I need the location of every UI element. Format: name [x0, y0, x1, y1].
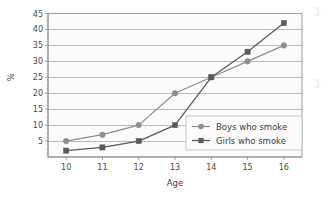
legend-item-label-girls: Girls who smoke — [216, 136, 286, 146]
y-tick-label: 20 — [33, 89, 43, 98]
data-point-marker — [64, 148, 69, 153]
data-point-marker — [136, 138, 141, 143]
legend-item-label-boys: Boys who smoke — [216, 122, 287, 132]
x-tick-label: 16 — [279, 163, 289, 172]
data-point-marker — [136, 122, 142, 128]
data-point-marker — [172, 90, 178, 96]
x-tick-label: 11 — [97, 163, 107, 172]
x-tick-label: 15 — [242, 163, 252, 172]
data-point-marker — [63, 138, 69, 144]
data-point-marker — [281, 20, 286, 25]
y-tick-label: 45 — [33, 10, 43, 19]
data-point-marker — [281, 43, 287, 49]
y-tick-label: 10 — [33, 121, 43, 130]
y-tick-label: 30 — [33, 57, 43, 66]
y-axis-title: % — [6, 73, 16, 81]
chart-canvas: 5101520253035404510111213141516Age%Boys … — [0, 0, 329, 201]
data-point-marker — [209, 75, 214, 80]
x-tick-label: 13 — [170, 163, 180, 172]
y-tick-label: 25 — [33, 73, 43, 82]
legend-marker — [198, 124, 204, 130]
x-tick-label: 12 — [134, 163, 144, 172]
data-point-marker — [100, 132, 106, 138]
page-edge-artifact-top: 1 — [313, 4, 322, 19]
y-tick-label: 35 — [33, 41, 43, 50]
data-point-marker — [100, 145, 105, 150]
x-axis-title: Age — [167, 178, 183, 188]
data-point-marker — [172, 123, 177, 128]
data-point-marker — [245, 49, 250, 54]
y-tick-label: 40 — [33, 25, 43, 34]
x-tick-label: 14 — [206, 163, 216, 172]
page-edge-artifact-bottom: 1 — [313, 76, 322, 91]
y-tick-label: 5 — [38, 137, 43, 146]
data-point-marker — [245, 59, 251, 65]
y-tick-label: 15 — [33, 105, 43, 114]
x-tick-label: 10 — [61, 163, 71, 172]
line-chart: 5101520253035404510111213141516Age%Boys … — [0, 0, 329, 201]
legend-marker — [198, 138, 203, 143]
